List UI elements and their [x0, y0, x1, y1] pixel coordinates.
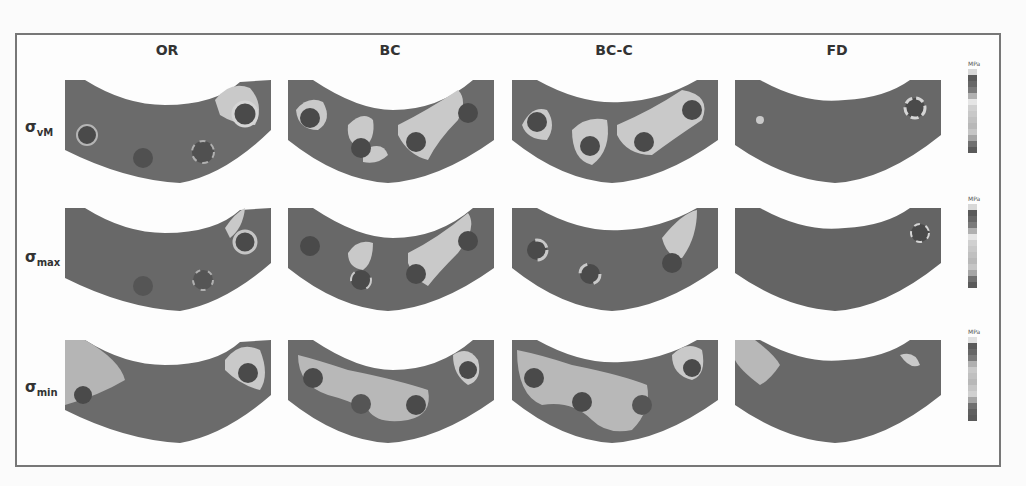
stress-map-fd-min	[735, 340, 941, 446]
color-legend-vm: MPa	[968, 60, 998, 153]
stress-map-bc-c-min	[512, 340, 718, 446]
stress-map-bc-min	[288, 340, 494, 446]
column-header-fd: FD	[737, 42, 937, 58]
row-label-max-principal: σmax	[25, 248, 60, 268]
stress-map-or-min	[65, 340, 271, 446]
stress-map-bc-c-vm	[512, 80, 718, 186]
legend-unit: MPa	[968, 195, 998, 202]
stress-map-or-vm	[65, 80, 271, 186]
stress-map-fd-vm	[735, 80, 941, 186]
stress-map-or-max	[65, 208, 271, 314]
column-header-bc-c: BC-C	[514, 42, 714, 58]
legend-unit: MPa	[968, 60, 998, 67]
row-label-von-mises: σvM	[25, 118, 53, 138]
column-header-bc: BC	[290, 42, 490, 58]
row-label-min-principal: σmin	[25, 378, 58, 398]
legend-unit: MPa	[968, 328, 998, 335]
column-header-or: OR	[67, 42, 267, 58]
stress-map-bc-max	[288, 208, 494, 314]
stress-map-bc-c-max	[512, 208, 718, 314]
stress-map-fd-max	[735, 208, 941, 314]
color-legend-max: MPa	[968, 195, 998, 288]
stress-map-bc-vm	[288, 80, 494, 186]
color-legend-min: MPa	[968, 328, 998, 421]
